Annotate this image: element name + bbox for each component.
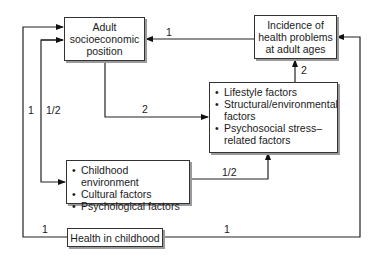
adult-sep-line3: position xyxy=(70,45,139,57)
edge-label-mediators-to-incidence: 2 xyxy=(301,64,307,76)
edge-label-health-to-adult: 1 xyxy=(28,104,34,116)
box-mediating-factors: Lifestyle factors Structural/environment… xyxy=(209,82,338,153)
childhood-factor-item: Childhood environment xyxy=(71,164,185,188)
edge-label-incidence-to-adult: 1 xyxy=(166,26,172,38)
edge-label-adult-to-mediators: 2 xyxy=(142,103,148,115)
arrow-health-to-adult xyxy=(23,27,67,237)
adult-sep-line2: socioeconomic xyxy=(70,33,139,45)
edge-label-health-left: 1 xyxy=(42,223,48,235)
edge-label-childhood-factors-to-mediators: 1/2 xyxy=(222,166,237,178)
arrow-adult-to-mediators xyxy=(105,61,208,117)
box-incidence-health-problems: Incidence of health problems at adult ag… xyxy=(254,15,337,59)
childhood-factor-item: Psychological factors xyxy=(71,200,185,212)
incidence-line3: at adult ages xyxy=(258,43,333,55)
mediator-item: Psychosocial stress–related factors xyxy=(214,122,333,146)
edge-label-childhood-factors-to-adult: 1/2 xyxy=(46,104,61,116)
health-childhood-label: Health in childhood xyxy=(70,232,159,244)
incidence-line2: health problems xyxy=(258,31,333,43)
mediator-item: Structural/environmental factors xyxy=(214,98,333,122)
box-health-in-childhood: Health in childhood xyxy=(67,228,163,247)
adult-sep-line1: Adult xyxy=(70,21,139,33)
childhood-factor-item: Cultural factors xyxy=(71,188,185,200)
edge-label-health-to-incidence: 1 xyxy=(224,223,230,235)
incidence-line1: Incidence of xyxy=(258,19,333,31)
mediator-item: Lifestyle factors xyxy=(214,86,333,98)
box-childhood-factors: Childhood environment Cultural factors P… xyxy=(66,160,190,204)
box-adult-socioeconomic-position: Adult socioeconomic position xyxy=(64,17,145,61)
